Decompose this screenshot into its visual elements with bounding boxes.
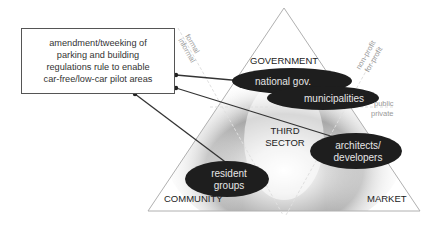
actor-architects-developers: architects/ developers bbox=[310, 133, 402, 169]
axis-label-nonprofit-forprofit: non-profit for-profit bbox=[354, 38, 386, 75]
actor-label: developers bbox=[334, 152, 383, 163]
actor-label: groups bbox=[214, 180, 245, 191]
axis-label-private: private bbox=[371, 109, 394, 118]
actor-label: architects/ bbox=[335, 140, 381, 151]
center-label-sector: SECTOR bbox=[265, 137, 305, 148]
actor-label: municipalities bbox=[304, 93, 364, 104]
axis-label-formal-informal: formal informal bbox=[176, 33, 204, 65]
callout-line: parking and building bbox=[44, 49, 153, 61]
corner-label-market: MARKET bbox=[367, 193, 407, 204]
callout-line: car-free/low-car pilot areas bbox=[44, 73, 153, 85]
axis-label-public: public bbox=[374, 99, 394, 108]
corner-label-community: COMMUNITY bbox=[164, 193, 223, 204]
actor-resident-groups: resident groups bbox=[185, 161, 269, 197]
callout-line: amendment/tweeking of bbox=[44, 37, 153, 49]
policy-callout-box: amendment/tweeking of parking and buildi… bbox=[21, 28, 175, 94]
corner-label-government: GOVERNMENT bbox=[250, 55, 318, 66]
callout-line: regulations rule to enable bbox=[44, 61, 153, 73]
actor-label: resident bbox=[211, 168, 247, 179]
actor-label: national gov. bbox=[255, 76, 311, 87]
actor-municipalities: municipalities bbox=[267, 86, 379, 110]
center-label-third: THIRD bbox=[270, 125, 299, 136]
